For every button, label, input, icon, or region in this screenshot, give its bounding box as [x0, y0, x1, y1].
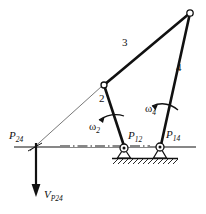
- vp24-sub-24: 24: [55, 194, 63, 203]
- vp24-subscript: P24: [51, 194, 63, 203]
- label-p14: P14: [166, 129, 180, 143]
- label-p12: P12: [128, 130, 142, 144]
- label-omega-4: ω4: [145, 103, 156, 117]
- vp24-glyph: V: [44, 188, 51, 200]
- velocity-vector-vp24: [32, 143, 41, 197]
- label-p24: P24: [9, 130, 23, 144]
- omega2-arrow: [99, 115, 124, 123]
- construction-line-p24-to-jointA: [30, 77, 112, 151]
- linkage-diagram-svg: [0, 0, 206, 214]
- pin-joint-b: [187, 10, 193, 16]
- p14-subscript: 14: [173, 134, 181, 143]
- pin-joint-a: [101, 82, 107, 88]
- pivot-inner-dot-p12: [123, 147, 126, 150]
- label-omega-2: ω2: [89, 121, 100, 135]
- p14-glyph: P: [166, 128, 173, 140]
- p12-glyph: P: [128, 129, 135, 141]
- label-vp24: VP24: [44, 189, 63, 203]
- label-link-2: 2: [99, 93, 105, 104]
- p24-glyph: P: [9, 129, 16, 141]
- ground-pivot-p14: [154, 143, 167, 158]
- p12-subscript: 12: [135, 135, 143, 144]
- omega2-subscript: 2: [96, 126, 100, 135]
- pivot-inner-dot-p14: [159, 146, 162, 149]
- ground-hatching: [113, 159, 178, 164]
- figure-canvas: 2 3 4 ω2 ω4 P12 P14 P24 VP24: [0, 0, 206, 214]
- p24-subscript: 24: [16, 135, 24, 144]
- omega4-subscript: 4: [152, 108, 156, 117]
- label-link-3: 3: [122, 37, 128, 48]
- label-link-4: 4: [176, 62, 182, 73]
